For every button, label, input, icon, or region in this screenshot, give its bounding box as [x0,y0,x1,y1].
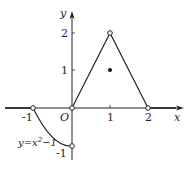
open-point-0-neg1 [70,144,75,149]
open-point-1-2 [108,31,113,36]
y-tick-label-2: 2 [61,27,68,40]
rising-line [73,35,109,106]
x-tick-label-1: 1 [107,111,114,124]
filled-point-1-1 [108,68,112,72]
open-point-0-0 [70,106,75,111]
y-tick-label-1: 1 [61,64,68,77]
x-axis-label: x [174,111,181,124]
x-tick-label-2: 2 [145,111,152,124]
parabola-label: y=x2−1 [17,136,57,148]
y-tick-label-neg1: -1 [56,147,67,160]
origin-label: O [60,111,69,124]
y-axis-label: y [59,7,67,20]
falling-line [111,35,147,106]
open-point-neg1-0 [31,106,36,111]
x-tick-label-neg1: -1 [22,111,33,124]
parabola-label-base: y=x [17,137,38,148]
piecewise-function-graph: y x O -1 1 2 2 1 -1 y=x2−1 [0,0,192,175]
open-point-2-0 [146,106,151,111]
parabola-label-tail: −1 [42,137,57,148]
